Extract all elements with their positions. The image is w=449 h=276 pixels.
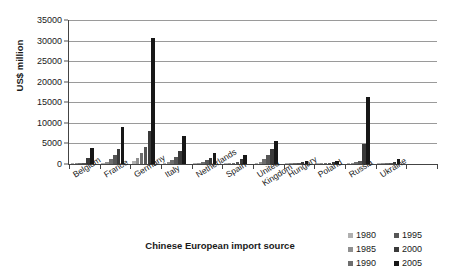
x-axis-tick-mark (161, 164, 162, 169)
y-axis-tick-labels: 05000100001500020000250003000035000 (0, 0, 70, 276)
legend-swatch (394, 233, 399, 238)
plot-area (68, 20, 437, 165)
bar-group (101, 20, 124, 164)
bar-group (285, 20, 308, 164)
bar-group (347, 20, 370, 164)
bar-group (224, 20, 247, 164)
bar-group (163, 20, 186, 164)
bar-group (316, 20, 339, 164)
x-axis-tick-mark (192, 164, 193, 169)
bar (182, 136, 186, 164)
bar-group (132, 20, 155, 164)
bar (366, 97, 370, 164)
bar-group (71, 20, 94, 164)
legend-entry: 1990 (348, 256, 394, 270)
x-axis-title: Chinese European import source (120, 240, 320, 251)
x-axis-tick-mark (376, 164, 377, 169)
bar-group (193, 20, 216, 164)
chart-legend: 198019951985200019902005 (348, 228, 448, 270)
legend-label: 1980 (356, 231, 376, 240)
x-axis-tick-mark (437, 164, 438, 169)
bar-group (255, 20, 278, 164)
x-axis-tick-mark (130, 164, 131, 169)
y-axis-tick-label: 0 (57, 159, 62, 169)
category-label-line: Italy (163, 163, 182, 180)
y-axis-tick-label: 5000 (42, 138, 62, 148)
chart-figure: US$ million 0500010000150002000025000300… (0, 0, 449, 276)
legend-label: 1995 (402, 231, 422, 240)
y-axis-tick-label: 10000 (37, 118, 62, 128)
x-axis-tick-mark (69, 164, 70, 169)
legend-entry: 2005 (394, 256, 440, 270)
legend-label: 1985 (356, 245, 376, 254)
x-axis-tick-mark (253, 164, 254, 169)
legend-entry: 1985 (348, 242, 394, 256)
y-axis-tick-label: 35000 (37, 15, 62, 25)
legend-entry: 1995 (394, 228, 440, 242)
legend-entry: 1980 (348, 228, 394, 242)
y-axis-tick-label: 30000 (37, 36, 62, 46)
legend-swatch (348, 233, 353, 238)
legend-swatch (348, 261, 353, 266)
y-axis-tick-label: 20000 (37, 77, 62, 87)
y-axis-tick-label: 25000 (37, 56, 62, 66)
legend-swatch (394, 261, 399, 266)
x-axis-category-label: Italy (163, 163, 182, 180)
legend-swatch (394, 247, 399, 252)
x-axis-tick-mark (345, 164, 346, 169)
legend-label: 2000 (402, 245, 422, 254)
y-axis-tick-label: 15000 (37, 97, 62, 107)
legend-swatch (348, 247, 353, 252)
legend-label: 1990 (356, 259, 376, 268)
bar (151, 38, 155, 164)
bar-group (408, 20, 431, 164)
bar-group (377, 20, 400, 164)
legend-label: 2005 (402, 259, 422, 268)
legend-entry: 2000 (394, 242, 440, 256)
